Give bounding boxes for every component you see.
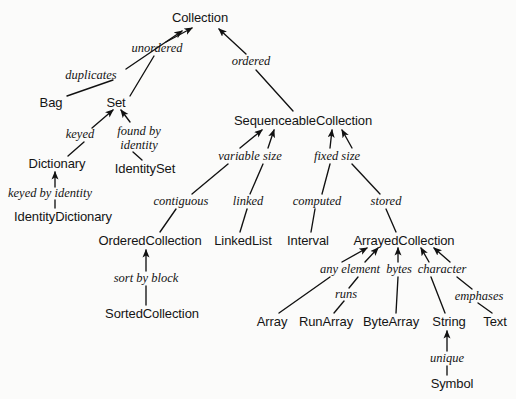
- class-node-symbol[interactable]: Symbol: [431, 376, 474, 391]
- edge-label-found-by-identity: found by identity: [117, 124, 160, 152]
- edge-runarray-runs: [334, 301, 344, 313]
- class-node-arrayedcollection[interactable]: ArrayedCollection: [354, 233, 455, 248]
- edge-label-emphases: emphases: [455, 290, 504, 303]
- edge-variablesize-sequenceable: [240, 130, 262, 148]
- edge-label-keyed-by-identity: keyed by identity: [8, 187, 92, 200]
- class-node-set[interactable]: Set: [106, 95, 125, 110]
- edge-label-linked: linked: [233, 195, 264, 208]
- edge-computed-fixedsize: [322, 164, 330, 194]
- edge-variablesize2-sequenceable: [268, 130, 274, 148]
- class-node-linkedlist[interactable]: LinkedList: [214, 233, 272, 248]
- class-node-bytearray[interactable]: ByteArray: [363, 314, 419, 329]
- edge-label-duplicates: duplicates: [65, 69, 116, 82]
- edge-label-keyed: keyed: [66, 128, 94, 141]
- edge-found-set: [121, 110, 130, 122]
- edge-character2-arrayed: [434, 248, 450, 262]
- edge-label-unique: unique: [430, 352, 464, 365]
- edge-label-runs: runs: [335, 288, 357, 301]
- edge-label-character: character: [418, 263, 467, 276]
- edge-fixedsize2-sequenceable: [342, 130, 352, 148]
- class-node-sequenceablecollection[interactable]: SequenceableCollection: [234, 113, 372, 128]
- edge-array-anyelement: [279, 277, 330, 313]
- class-node-sortedcollection[interactable]: SortedCollection: [105, 306, 199, 321]
- edge-linkedlist-linked: [240, 209, 247, 232]
- edge-fixedsize-sequenceable: [330, 130, 332, 148]
- edge-label-sort-by-block: sort by block: [114, 272, 179, 285]
- class-node-collection[interactable]: Collection: [172, 10, 228, 25]
- edge-label-stored: stored: [371, 195, 402, 208]
- class-node-string[interactable]: String: [432, 314, 465, 329]
- edge-label-bytes: bytes: [386, 263, 412, 276]
- class-node-identitydictionary[interactable]: IdentityDictionary: [14, 209, 112, 224]
- edge-anyelement2-arrayed: [365, 248, 378, 262]
- edge-linked-variablesize2: [250, 164, 263, 194]
- edge-ordered-collection: [219, 29, 246, 54]
- edge-dictionary-keyed: [68, 142, 84, 156]
- edge-string-character: [431, 277, 445, 313]
- edge-interval-computed: [311, 209, 315, 232]
- edge-label-contiguous: contiguous: [154, 195, 209, 208]
- edge-label-fixed-size: fixed size: [314, 150, 360, 163]
- edge-anyelement-arrayed: [342, 248, 367, 262]
- edge-orderedcollection-contiguous: [160, 209, 176, 232]
- class-node-identityset[interactable]: IdentitySet: [115, 161, 175, 176]
- edge-set-unordered: [130, 56, 154, 96]
- edge-label-ordered: ordered: [232, 55, 271, 68]
- class-node-array[interactable]: Array: [257, 314, 288, 329]
- class-node-orderedcollection[interactable]: OrderedCollection: [98, 233, 201, 248]
- class-hierarchy-diagram: CollectionBagSetDictionaryIdentitySetIde…: [0, 0, 516, 399]
- edge-label-computed: computed: [293, 195, 342, 208]
- edge-text-emphases: [478, 303, 492, 313]
- class-node-bag[interactable]: Bag: [40, 95, 63, 110]
- edge-arrayedcollection-stored: [386, 209, 396, 232]
- edge-label-variable-size: variable size: [218, 150, 282, 163]
- edge-identityset-found: [133, 152, 142, 160]
- class-node-runarray[interactable]: RunArray: [299, 314, 353, 329]
- edge-character-arrayed: [421, 248, 429, 262]
- edge-keyed-set: [92, 110, 113, 128]
- edge-contiguous-variablesize: [192, 164, 228, 194]
- class-node-dictionary[interactable]: Dictionary: [29, 156, 86, 171]
- edge-sequenceable-ordered: [256, 70, 293, 111]
- edge-label-unordered: unordered: [131, 42, 182, 55]
- edge-stored-fixedsize: [352, 164, 380, 194]
- edge-bytearray-bytes: [396, 277, 398, 313]
- edge-label-any-element: any element: [320, 263, 380, 276]
- class-node-interval[interactable]: Interval: [287, 233, 329, 248]
- class-node-text[interactable]: Text: [483, 314, 506, 329]
- edge-emphases-character: [457, 277, 472, 289]
